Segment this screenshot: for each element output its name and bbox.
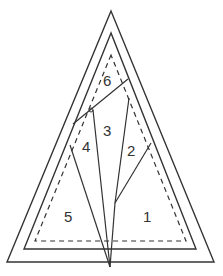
seam-line-3-base <box>110 203 115 267</box>
section-label-3: 3 <box>103 122 111 139</box>
seam-line-6 <box>73 79 128 124</box>
section-label-1: 1 <box>143 208 151 225</box>
section-label-5: 5 <box>64 208 72 225</box>
middle-triangle <box>24 33 196 249</box>
section-label-6: 6 <box>103 72 111 89</box>
section-label-4: 4 <box>82 138 90 155</box>
piecing-diagram: 6 3 4 2 5 1 <box>0 0 223 276</box>
section-label-2: 2 <box>127 142 135 159</box>
